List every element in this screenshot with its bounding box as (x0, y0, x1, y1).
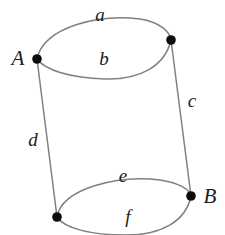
edge-label-b: b (99, 49, 109, 68)
edge-c-line (171, 40, 191, 196)
edge-f-arc (57, 196, 191, 235)
edge-label-e: e (119, 166, 127, 185)
vertex-dot-b (186, 191, 196, 201)
edge-label-a: a (95, 5, 105, 24)
edge-label-c: c (188, 91, 196, 110)
vertex-label-b: B (204, 186, 217, 207)
vertex-label-a: A (12, 48, 25, 69)
figure-canvas (0, 0, 225, 235)
edge-label-d: d (28, 130, 38, 149)
vertex-dot-top-right (166, 35, 176, 45)
vertex-dot-bottom-left (52, 212, 62, 222)
cylinder-diagram: A B a b c d e f (0, 0, 225, 235)
edge-d-line (37, 59, 57, 217)
edge-label-f: f (125, 207, 130, 226)
vertex-dot-a (32, 54, 42, 64)
